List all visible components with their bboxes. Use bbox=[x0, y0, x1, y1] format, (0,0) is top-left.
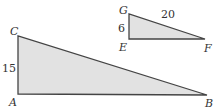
vertex-label-c: C bbox=[10, 25, 19, 38]
side-label-ac: 15 bbox=[2, 62, 16, 75]
side-label-gf: 20 bbox=[161, 8, 175, 21]
vertex-label-a: A bbox=[8, 96, 17, 108]
vertex-label-e: E bbox=[118, 41, 127, 54]
vertex-label-g: G bbox=[119, 4, 128, 17]
side-label-ge: 6 bbox=[118, 22, 125, 35]
vertex-label-b: B bbox=[204, 97, 213, 108]
similar-triangles-diagram: C A B 15 G E F 6 20 bbox=[0, 0, 217, 108]
vertex-label-f: F bbox=[203, 42, 212, 55]
large-triangle-abc bbox=[18, 36, 207, 95]
